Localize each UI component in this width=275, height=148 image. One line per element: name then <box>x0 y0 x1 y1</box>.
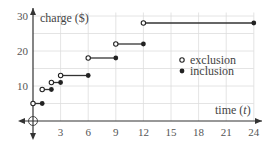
y-axis-label: charge ($) <box>40 11 89 25</box>
legend: exclusion inclusion <box>180 53 236 78</box>
x-axis-left-arrow-icon <box>18 118 25 124</box>
x-tick-label: 12 <box>138 126 149 138</box>
filled-circle-icon <box>251 21 256 26</box>
open-circle-icon <box>114 42 118 46</box>
x-tick-label: 15 <box>166 126 178 138</box>
x-tick-label: 3 <box>58 126 64 138</box>
x-tick-label: 18 <box>193 126 205 138</box>
x-tick-label: 21 <box>221 126 232 138</box>
y-axis-arrow-icon <box>30 8 36 15</box>
open-circle-icon <box>180 58 184 62</box>
filled-circle-icon <box>40 101 45 106</box>
open-circle-icon <box>40 87 44 91</box>
filled-circle-icon <box>180 69 185 74</box>
x-axis-arrow-icon <box>255 118 262 124</box>
x-tick-labels: 3691215182124 <box>58 126 260 138</box>
x-axis-label: time (t) <box>215 103 251 117</box>
y-tick-label: 20 <box>17 45 29 57</box>
open-circle-icon <box>49 80 53 84</box>
filled-circle-icon <box>86 73 91 78</box>
y-tick-label: 30 <box>17 10 29 22</box>
legend-inclusion: inclusion <box>190 64 234 78</box>
filled-circle-icon <box>58 80 63 85</box>
y-tick-label: 10 <box>17 80 29 92</box>
filled-circle-icon <box>49 87 54 92</box>
open-circle-icon <box>141 21 145 25</box>
filled-circle-icon <box>113 56 118 61</box>
x-tick-label: 24 <box>248 126 260 138</box>
y-tick-labels: 102030 <box>17 10 29 92</box>
x-tick-label: 9 <box>113 126 119 138</box>
step-function-chart: 3691215182124 102030 charge ($) time (t)… <box>0 0 275 148</box>
y-axis-down-arrow-icon <box>30 133 36 140</box>
x-tick-label: 6 <box>85 126 91 138</box>
filled-circle-icon <box>141 42 146 47</box>
open-circle-icon <box>86 56 90 60</box>
open-circle-icon <box>31 101 35 105</box>
open-circle-icon <box>58 73 62 77</box>
